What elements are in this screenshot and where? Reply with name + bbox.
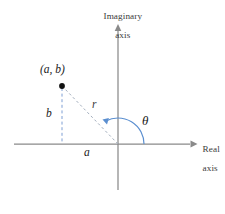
point-marker (59, 83, 65, 89)
imaginary-axis-label: Imaginary axis (86, 3, 150, 50)
imaginary-axis-label-line2: axis (115, 30, 130, 40)
real-axis-label-line2: axis (203, 163, 218, 173)
point-coordinate-label: (a, b) (40, 64, 65, 76)
real-part-label: a (84, 147, 90, 159)
complex-plane-figure: Imaginary axis Real axis (a, b) b a r θ (0, 0, 225, 214)
imaginary-part-label: b (46, 108, 52, 120)
imaginary-axis-label-line1: Imaginary (103, 11, 142, 21)
modulus-label: r (92, 99, 96, 111)
modulus-dashed-segment (64, 88, 118, 144)
angle-arc (103, 118, 145, 144)
real-axis-line (14, 141, 198, 148)
real-axis-label: Real axis (193, 136, 225, 183)
real-axis-label-line1: Real (203, 144, 220, 154)
angle-label: θ (142, 114, 148, 127)
